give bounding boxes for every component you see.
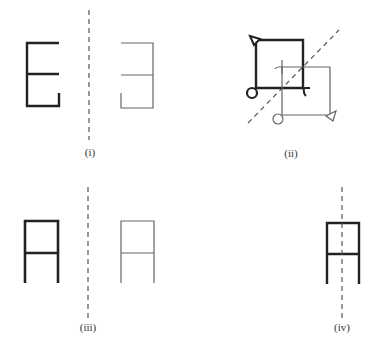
triangle-image xyxy=(326,111,336,121)
panel-label-i: (i) xyxy=(85,146,95,158)
mirror-line-ii xyxy=(248,30,339,123)
letter-a-object xyxy=(25,221,58,283)
hook-image xyxy=(275,60,282,74)
square-image xyxy=(282,67,330,115)
panel-label-iv: (iv) xyxy=(334,321,350,333)
letter-e-mirror-image xyxy=(121,43,153,108)
panel-label-iii: (iii) xyxy=(80,321,97,333)
panel-label-ii: (ii) xyxy=(284,147,297,159)
circle-object xyxy=(247,88,257,98)
square-object xyxy=(256,40,303,88)
panel-i xyxy=(27,10,153,140)
circle-image xyxy=(273,114,283,124)
panel-iii xyxy=(25,187,154,318)
panel-iv xyxy=(327,187,359,318)
letter-e-object xyxy=(27,43,59,106)
diagram-canvas xyxy=(0,0,380,353)
panel-ii xyxy=(247,30,339,124)
reflection-diagram: (i) (ii) (iii) (iv) xyxy=(0,0,380,353)
letter-a-symmetric xyxy=(327,223,359,284)
triangle-object xyxy=(250,36,260,45)
letter-a-mirror-image xyxy=(121,221,154,283)
